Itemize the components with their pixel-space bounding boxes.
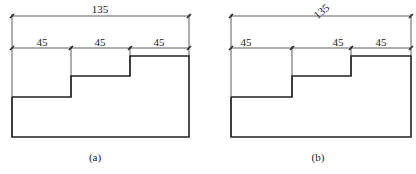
segment-dimension-label-2: 45 (333, 36, 345, 48)
stepped-shape-outline (231, 56, 411, 137)
figure-caption: (a) (89, 151, 102, 164)
stepped-shape-outline (12, 56, 189, 137)
segment-dimension-label-1: 45 (37, 36, 49, 48)
segment-dimension-label-1: 45 (241, 36, 253, 48)
overall-dimension-label: 135 (92, 3, 109, 15)
segment-dimension-label-2: 45 (95, 36, 107, 48)
overall-dimension-label: 135 (311, 1, 332, 21)
figure-caption: (b) (312, 151, 325, 164)
segment-dimension-label-3: 45 (376, 36, 388, 48)
segment-dimension-label-3: 45 (154, 36, 166, 48)
figure-a: 135 45 45 45 (a) (10, 3, 191, 164)
figure-b: 135 45 45 45 (b) (229, 1, 413, 164)
dimension-diagram: 135 45 45 45 (a) 135 45 45 45 (b) (0, 0, 416, 174)
